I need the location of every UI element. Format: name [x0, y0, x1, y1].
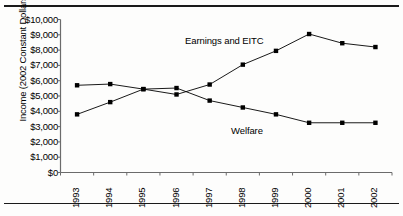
series-label-earnings-and-eitc: Earnings and EITC: [185, 35, 264, 46]
data-point-marker: [174, 86, 178, 90]
chart-figure: Income (2002 Constant Dollars) $10,000$9…: [0, 0, 403, 216]
data-point-marker: [75, 83, 79, 87]
data-point-marker: [373, 121, 377, 125]
data-point-marker: [108, 82, 112, 86]
chart-plot-area: [0, 0, 403, 216]
data-point-marker: [141, 87, 145, 91]
data-point-marker: [174, 92, 178, 96]
data-point-marker: [340, 41, 344, 45]
data-point-marker: [207, 98, 211, 102]
data-point-marker: [373, 45, 377, 49]
data-point-marker: [307, 121, 311, 125]
series-line: [77, 84, 375, 123]
data-point-marker: [241, 62, 245, 66]
series-label-welfare: Welfare: [231, 125, 263, 136]
data-point-marker: [75, 112, 79, 116]
data-point-marker: [307, 32, 311, 36]
data-point-marker: [340, 121, 344, 125]
data-point-marker: [108, 100, 112, 104]
data-point-marker: [274, 112, 278, 116]
series-line: [77, 34, 375, 114]
data-point-marker: [241, 105, 245, 109]
data-point-marker: [207, 82, 211, 86]
data-point-marker: [274, 49, 278, 53]
